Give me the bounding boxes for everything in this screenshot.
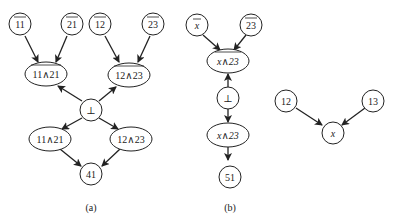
edge-bottom-to-c12-23 <box>99 118 118 129</box>
node-bottom: ⊥ <box>80 99 102 121</box>
node-label: x∧23 <box>216 56 239 67</box>
node-label: 11∧21 <box>33 69 60 80</box>
edge-23bar-to-cx-23bar <box>234 35 246 50</box>
node-cx-23bar: x∧23 <box>207 49 249 73</box>
node-label: 41 <box>86 169 96 180</box>
node-51: 51 <box>219 166 241 188</box>
node-c11-21: 11∧21 <box>29 127 71 151</box>
node-label: 23 <box>246 20 256 31</box>
node-label: 13 <box>368 96 378 107</box>
edge-c12-23-to-41 <box>102 149 120 166</box>
node-label: 23 <box>148 19 158 30</box>
node-11bar: 11 <box>9 13 31 35</box>
node-label: 12∧23 <box>117 134 144 145</box>
edge-bottom-to-c11-21bar <box>58 86 82 101</box>
node-label: x∧23 <box>216 130 239 141</box>
edge-13-to-x <box>342 108 365 125</box>
node-12bar: 12 <box>89 13 111 35</box>
edge-bottom-to-c12-23bar <box>99 87 116 101</box>
edge-23bar-to-c12-23bar <box>138 36 150 62</box>
edge-c11-21-to-41 <box>60 149 81 166</box>
node-21bar: 21 <box>61 13 83 35</box>
diagram-figure: 11 21 12 23 11∧21 12∧23 ⊥ 11∧21 12∧23 <box>0 0 393 221</box>
node-c12-23bar: 12∧23 <box>108 63 150 87</box>
node-41: 41 <box>80 163 102 185</box>
node-x: x <box>322 122 344 144</box>
node-13-b: 13 <box>362 90 384 112</box>
node-label: ⊥ <box>223 93 232 104</box>
node-label: 11∧21 <box>37 134 64 145</box>
node-bottom-b: ⊥ <box>217 87 239 109</box>
graph-canvas: 11 21 12 23 11∧21 12∧23 ⊥ 11∧21 12∧23 <box>0 0 393 221</box>
node-xbar: x <box>186 14 208 36</box>
node-23bar-b: 23 <box>240 14 262 36</box>
node-c11-21bar: 11∧21 <box>25 62 67 86</box>
node-label: 12∧23 <box>115 70 142 81</box>
node-23bar: 23 <box>142 13 164 35</box>
edge-12bar-to-c12-23bar <box>105 36 119 62</box>
edge-21bar-to-c11-21bar <box>56 36 67 62</box>
node-label: 21 <box>67 19 77 30</box>
caption-b: (b) <box>224 202 236 214</box>
node-label: 12 <box>95 19 105 30</box>
node-label: 51 <box>225 172 235 183</box>
node-label: ⊥ <box>86 105 95 116</box>
node-c12-23: 12∧23 <box>110 127 152 151</box>
node-label: 11 <box>15 19 25 30</box>
edge-xbar-to-cx-23bar <box>203 35 220 50</box>
node-label: x <box>194 20 200 31</box>
edge-bottom-to-c11-21 <box>62 118 82 129</box>
caption-a: (a) <box>85 202 96 214</box>
node-label: x <box>330 128 336 139</box>
edge-12-to-x <box>296 108 322 125</box>
node-12-b: 12 <box>275 90 297 112</box>
node-cx-23: x∧23 <box>207 123 249 147</box>
edge-11bar-to-c11-21bar <box>25 36 38 62</box>
node-label: 12 <box>281 96 291 107</box>
